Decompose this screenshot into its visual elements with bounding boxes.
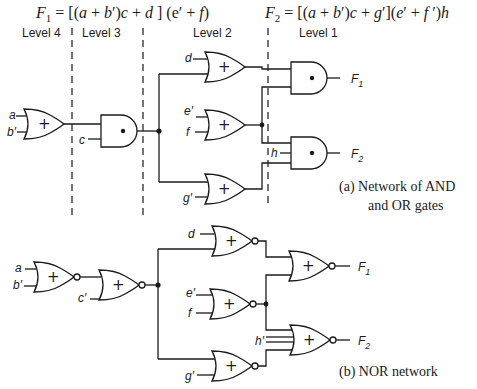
or-gate-g: + <box>205 174 245 204</box>
level-1-label: Level 1 <box>299 26 338 40</box>
nor-gate-g: + <box>212 351 258 381</box>
nor-input-b-prime: b′ <box>13 278 23 292</box>
network-a: a b′ + c d + e′ f <box>7 51 455 213</box>
level-3-label: Level 3 <box>82 26 121 40</box>
svg-text:+: + <box>302 257 315 275</box>
input-b-prime: b′ <box>7 125 17 139</box>
caption-a-line2: and OR gates <box>368 198 443 213</box>
nor-input-f: f <box>188 306 193 320</box>
network-b: a b′ + c′ + d + e′ <box>13 226 438 383</box>
or-gate-ab: + <box>24 109 64 139</box>
or-gate-ef: + <box>205 110 245 140</box>
input-a: a <box>9 108 16 122</box>
logic-diagram: F1 = [(a + b′)c + d ] (e′ + f) F2 = [(a … <box>0 0 477 389</box>
nor-input-e-prime: e′ <box>186 286 196 300</box>
svg-text:+: + <box>38 115 51 133</box>
nor-input-d: d <box>188 227 195 241</box>
level-4-label: Level 4 <box>22 26 61 40</box>
svg-text:+: + <box>225 232 238 250</box>
svg-text:+: + <box>112 276 125 294</box>
nor-input-a: a <box>15 261 22 275</box>
nor-input-g-prime: g′ <box>185 369 195 383</box>
input-h: h <box>271 146 278 160</box>
output-f1: F1 <box>351 72 363 89</box>
nor-input-h-prime: h′ <box>255 334 265 348</box>
equation-f1: F1 = [(a + b′)c + d ] (e′ + f) <box>35 4 209 24</box>
nor-gate-c: + <box>99 270 145 300</box>
nor-gate-f2: + <box>290 325 336 355</box>
svg-text:+: + <box>303 331 316 349</box>
input-g-prime: g′ <box>183 191 193 205</box>
caption-b: (b) NOR network <box>339 364 438 380</box>
and-gate-c <box>101 115 137 147</box>
svg-text:+: + <box>218 116 231 134</box>
svg-text:+: + <box>225 357 238 375</box>
or-gate-d: + <box>205 52 245 82</box>
svg-text:+: + <box>223 295 236 313</box>
caption-a-line1: (a) Network of AND <box>339 179 455 195</box>
nor-output-f2: F2 <box>358 334 370 351</box>
input-d: d <box>185 51 192 65</box>
svg-text:+: + <box>47 268 60 286</box>
input-e-prime: e′ <box>184 104 194 118</box>
and-gate-f2 <box>291 137 327 169</box>
nor-gate-ab: + <box>34 262 80 292</box>
nor-output-f1: F1 <box>358 260 370 277</box>
svg-text:+: + <box>218 180 231 198</box>
input-c: c <box>79 133 85 147</box>
nor-gate-d: + <box>212 226 258 256</box>
nor-gate-f1: + <box>289 251 335 281</box>
equation-f2: F2 = [(a + b′)c + g′](e′ + f ′)h <box>264 4 449 24</box>
nor-gate-ef: + <box>210 289 256 319</box>
level-2-label: Level 2 <box>193 26 232 40</box>
nor-input-c-prime: c′ <box>78 291 87 305</box>
svg-text:+: + <box>218 58 231 76</box>
and-gate-f1 <box>291 62 327 94</box>
input-f: f <box>186 125 191 139</box>
output-f2: F2 <box>351 147 363 164</box>
